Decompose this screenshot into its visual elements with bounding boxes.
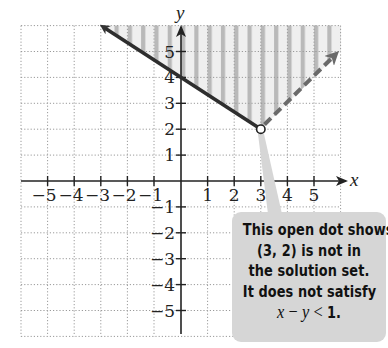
x-tick-label: −2: [111, 185, 136, 205]
y-tick-label: −5: [150, 301, 175, 321]
x-tick-label: −5: [31, 185, 56, 205]
callout-line-4: It does not satisfy: [243, 282, 375, 303]
y-tick-label: 2: [164, 119, 175, 139]
callout-inequality: x − y < 1.: [243, 302, 375, 324]
x-tick-label: −3: [85, 185, 110, 205]
callout-line-2: (3, 2) is not in: [243, 241, 375, 262]
y-tick-label: −3: [150, 249, 175, 269]
x-tick-label: 5: [309, 185, 320, 205]
y-tick-label: 3: [164, 93, 175, 113]
callout-annotation: This open dot shows (3, 2) is not in the…: [232, 212, 386, 342]
y-axis-label: y: [174, 2, 185, 23]
math-minus: −: [284, 301, 302, 322]
y-tick-label: −1: [150, 197, 175, 217]
y-tick-label: −4: [150, 275, 175, 295]
open-dot-point: [257, 125, 265, 133]
x-tick-label: −4: [58, 185, 83, 205]
y-tick-label: −2: [150, 223, 175, 243]
callout-line-3: the solution set.: [243, 261, 375, 282]
y-tick-label: 5: [164, 42, 175, 62]
x-tick-label: 1: [202, 185, 213, 205]
y-tick-label: 1: [164, 145, 175, 165]
x-tick-label: 3: [255, 185, 266, 205]
x-tick-label: 4: [282, 185, 293, 205]
math-one: 1.: [327, 304, 341, 322]
math-less-than: <: [309, 301, 327, 322]
callout-line-1: This open dot shows: [243, 220, 375, 241]
x-tick-label: 2: [229, 185, 240, 205]
x-axis-label: x: [349, 169, 359, 190]
